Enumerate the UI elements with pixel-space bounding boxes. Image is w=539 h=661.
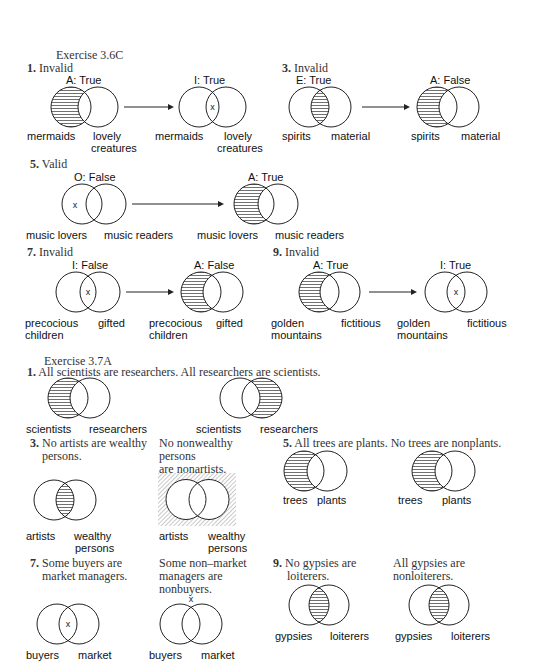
term-label: wealthy — [74, 530, 111, 542]
term-label: plants — [317, 494, 346, 506]
diagram-caption: I: False — [72, 259, 108, 271]
statement-text: Some buyers are — [42, 556, 122, 570]
item-3-statement-left: 3. No artists are wealthy persons. — [30, 437, 147, 463]
item-9-header: 9. Invalid — [273, 245, 319, 260]
venn-diagram-3-left — [288, 86, 358, 128]
diagram-caption: I: True — [440, 259, 471, 271]
statement-text: nonloiterers. — [393, 569, 453, 583]
diagram-caption: A: True — [66, 74, 101, 86]
venn-diagram-37-9-left — [288, 584, 358, 626]
term-label: spirits — [282, 130, 311, 142]
venn-diagram-37-1-right — [219, 377, 289, 419]
term-label: persons — [75, 542, 114, 554]
venn-diagram-1-right: x — [178, 86, 248, 128]
item-number: 3. — [282, 61, 291, 75]
term-label: gifted — [216, 317, 243, 329]
term-label: artists — [26, 530, 55, 542]
term-label: persons — [208, 542, 247, 554]
statement-text: persons. — [30, 449, 82, 463]
term-label: material — [331, 130, 370, 142]
x-mark: x — [86, 287, 91, 297]
term-label: fictitious — [341, 317, 381, 329]
term-label: loiterers — [451, 630, 490, 642]
diagram-caption: A: False — [194, 259, 234, 271]
term-label: material — [461, 130, 500, 142]
term-label: lovely — [224, 130, 252, 142]
arrow-icon — [369, 288, 417, 296]
x-mark: x — [66, 619, 71, 629]
item-number: 1. — [27, 61, 36, 75]
term-label: precocious — [25, 317, 78, 329]
arrow-icon — [126, 288, 174, 296]
item-number: 3. — [30, 436, 39, 450]
arrow-icon — [132, 200, 224, 208]
item-number: 9. — [273, 556, 282, 570]
arrow-icon — [124, 103, 174, 111]
term-label: market — [78, 649, 112, 661]
diagram-caption: A: False — [430, 74, 470, 86]
term-label: researchers — [260, 423, 318, 435]
term-label: mountains — [271, 329, 322, 341]
x-mark: x — [189, 594, 194, 604]
term-label: scientists — [196, 423, 241, 435]
term-label: golden — [397, 317, 430, 329]
venn-diagram-7-left: x — [55, 271, 125, 313]
term-label: mountains — [397, 329, 448, 341]
item-number: 9. — [273, 245, 282, 259]
venn-diagram-9-left — [298, 271, 368, 313]
statement-text: managers are — [159, 569, 223, 583]
term-label: mermaids — [27, 130, 75, 142]
term-label: music lovers — [26, 229, 87, 241]
item-verdict: Invalid — [39, 61, 73, 75]
term-label: spirits — [411, 130, 440, 142]
venn-diagram-37-7-left: x — [36, 603, 106, 645]
term-label: music readers — [275, 229, 344, 241]
term-label: researchers — [89, 423, 147, 435]
statement-text: No artists are wealthy — [42, 436, 147, 450]
venn-diagram-37-5-left — [283, 450, 353, 492]
statement-text: loiterers. — [273, 569, 329, 583]
item-number: 7. — [27, 245, 36, 259]
item-7-header: 7. Invalid — [27, 245, 73, 260]
term-label: lovely — [93, 130, 121, 142]
venn-diagram-9-right: x — [424, 271, 494, 313]
item-number: 5. — [283, 436, 292, 450]
venn-diagram-5-right — [233, 183, 303, 225]
venn-diagram-37-1-left — [47, 377, 117, 419]
term-label: plants — [442, 494, 471, 506]
x-mark: x — [454, 287, 459, 297]
diagram-caption: O: False — [74, 171, 116, 183]
venn-diagram-7-right — [180, 271, 250, 313]
item-verdict: Invalid — [285, 245, 319, 259]
venn-diagram-3-right — [416, 86, 486, 128]
diagram-caption: A: True — [313, 259, 348, 271]
arrow-icon — [362, 103, 410, 111]
diagram-caption: E: True — [296, 74, 331, 86]
item-9-statement-right: All gypsies are nonloiterers. — [393, 557, 465, 583]
term-label: children — [149, 329, 188, 341]
item-7-statement-right: Some non–market managers are nonbuyers. — [159, 557, 247, 596]
statement-text: market managers. — [30, 569, 127, 583]
term-label: precocious — [149, 317, 202, 329]
term-label: creatures — [91, 142, 137, 154]
statement-text: All gypsies are — [393, 556, 465, 570]
venn-diagram-37-7-right: x — [159, 594, 229, 645]
statement-text: No gypsies are — [285, 556, 356, 570]
venn-diagram-37-5-right — [411, 450, 481, 492]
x-mark: x — [73, 200, 78, 210]
term-label: buyers — [26, 649, 59, 661]
diagram-caption: I: True — [194, 74, 225, 86]
term-label: creatures — [217, 142, 263, 154]
diagram-caption: A: True — [248, 171, 283, 183]
venn-diagram-5-left: x — [61, 183, 131, 225]
venn-diagram-37-9-right — [408, 584, 478, 626]
term-label: trees — [398, 494, 422, 506]
term-label: buyers — [149, 649, 182, 661]
item-verdict: Valid — [42, 157, 67, 171]
term-label: children — [25, 329, 64, 341]
venn-diagram-1-left — [50, 86, 120, 128]
statement-text: All trees are plants. No trees are nonpl… — [294, 436, 501, 450]
term-label: music lovers — [197, 229, 258, 241]
term-label: gypsies — [395, 630, 432, 642]
item-verdict: Invalid — [294, 61, 328, 75]
